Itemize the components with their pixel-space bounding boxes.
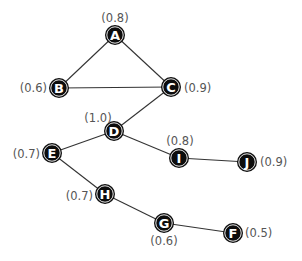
node-letter: F — [229, 226, 238, 241]
node-c-value: (0.9) — [184, 81, 211, 95]
node-a: A — [105, 25, 125, 45]
node-i-value: (0.8) — [166, 134, 193, 148]
edge-a-c — [115, 35, 171, 87]
node-g-value: (0.6) — [150, 234, 177, 248]
node-letter: A — [110, 28, 120, 43]
node-b-value: (0.6) — [20, 81, 47, 95]
node-letter: J — [244, 155, 250, 170]
node-i: I — [169, 148, 189, 168]
nodes-layer: ABCDEIJHGF — [42, 25, 257, 243]
node-h: H — [95, 184, 115, 204]
edge-i-j — [179, 158, 247, 162]
node-h-value: (0.7) — [66, 189, 93, 203]
node-d-value: (1.0) — [84, 111, 111, 125]
node-letter: G — [159, 216, 170, 231]
edge-g-f — [164, 223, 233, 233]
edge-a-b — [59, 35, 115, 88]
node-letter: I — [177, 151, 182, 166]
node-e-value: (0.7) — [13, 147, 40, 161]
node-letter: B — [54, 81, 64, 96]
edges-layer — [52, 35, 247, 233]
node-letter: E — [48, 146, 57, 161]
edge-b-c — [59, 87, 171, 88]
node-g: G — [154, 213, 174, 233]
node-b: B — [49, 78, 69, 98]
edge-e-h — [52, 153, 105, 194]
graph-diagram: ABCDEIJHGF (0.8)(0.6)(0.9)(1.0)(0.7)(0.8… — [0, 0, 302, 261]
node-f-value: (0.5) — [245, 226, 272, 240]
node-j: J — [237, 152, 257, 172]
node-letter: D — [109, 124, 120, 139]
node-letter: H — [100, 187, 111, 202]
node-letter: C — [166, 80, 176, 95]
value-labels-layer: (0.8)(0.6)(0.9)(1.0)(0.7)(0.8)(0.9)(0.7)… — [13, 11, 288, 248]
node-c: C — [161, 77, 181, 97]
node-e: E — [42, 143, 62, 163]
node-f: F — [223, 223, 243, 243]
node-j-value: (0.9) — [260, 155, 287, 169]
node-a-value: (0.8) — [101, 11, 128, 25]
edge-c-d — [114, 87, 171, 131]
